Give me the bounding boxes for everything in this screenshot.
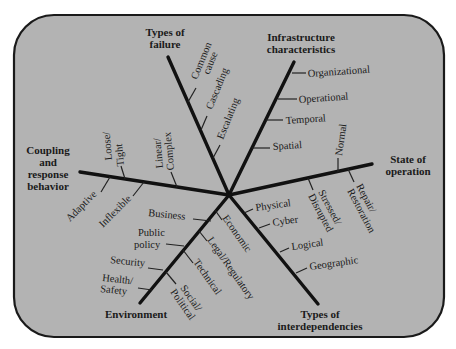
title-coupling-1: Coupling [26,144,70,156]
label-public-policy-2: policy [134,239,161,250]
title-infrastructure-2: characteristics [267,43,336,55]
title-coupling-3: response [28,168,69,180]
title-state-of-operation-1: State of [390,153,426,165]
label-loose-tight-2: Tight [113,143,126,166]
title-types-of-failure-2: failure [150,38,181,50]
title-coupling-2: and [39,156,57,168]
title-coupling-4: behavior [27,180,69,192]
title-types-of-failure-1: Types of [145,26,185,38]
title-environment: Environment [105,308,167,320]
label-public-policy-1: Public [138,227,165,238]
title-interdependencies-2: interdependencies [278,320,364,332]
fishbone-diagram: Types of failure Common cause Cascading … [0,0,456,349]
label-spatial: Spatial [272,139,302,152]
title-interdependencies-1: Types of [300,308,340,320]
title-infrastructure-1: Infrastructure [267,31,335,43]
title-state-of-operation-2: operation [385,165,430,177]
diagram-panel [14,15,444,337]
